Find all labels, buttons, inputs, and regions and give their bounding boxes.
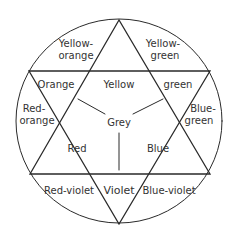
label-blue: Blue: [147, 143, 169, 154]
label-red: Red: [68, 143, 87, 154]
label-yellow-green-1: Yellow-: [145, 38, 181, 49]
divider-yellow-blue: [133, 99, 163, 114]
label-red-orange-2: orange: [19, 115, 54, 126]
upward-triangle: [30, 20, 210, 174]
label-red-orange-1: Red-: [23, 103, 46, 114]
label-green: green: [164, 79, 193, 90]
label-blue-green-1: Blue-: [190, 103, 216, 114]
label-yellow-green-2: green: [151, 50, 180, 61]
label-blue-green-2: green: [185, 115, 214, 126]
color-wheel-diagram: Yellow- orange Yellow- green Orange gree…: [0, 0, 231, 239]
label-grey: Grey: [107, 117, 131, 128]
label-blue-violet: Blue-violet: [142, 185, 195, 196]
label-yellow-orange-1: Yellow-: [58, 38, 94, 49]
label-red-violet: Red-violet: [44, 185, 94, 196]
label-orange: Orange: [38, 79, 75, 90]
label-yellow: Yellow: [103, 79, 135, 90]
label-yellow-orange-2: orange: [58, 50, 93, 61]
divider-yellow-red: [78, 99, 105, 114]
label-violet: Violet: [103, 184, 135, 197]
